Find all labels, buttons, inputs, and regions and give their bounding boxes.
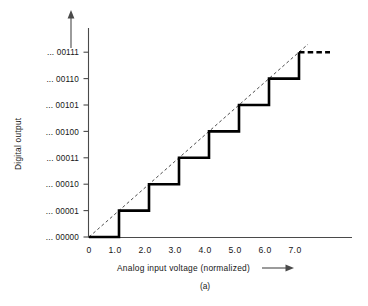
y-tick-label-1: ... 00001 [46, 207, 80, 216]
chart-canvas: ... 00111 ... 00110 ... 00101 ... 00100 … [0, 0, 368, 306]
x-axis-title: Analog input voltage (normalized) [117, 263, 250, 273]
y-tick-label-4: ... 00100 [46, 128, 80, 137]
y-tick-label-3: ... 00011 [46, 154, 79, 163]
x-tick-label-2: 2.0 [138, 245, 151, 255]
x-tick-label-7: 7.0 [288, 245, 301, 255]
y-tick-label-5: ... 00101 [46, 101, 80, 110]
ideal-transfer-line [89, 44, 308, 237]
y-tick-label-7: ... 00111 [47, 48, 79, 57]
y-tick-label-6: ... 00110 [46, 75, 79, 84]
x-tick-label-4: 4.0 [198, 245, 211, 255]
y-tick-labels: ... 00111 ... 00110 ... 00101 ... 00100 … [46, 48, 80, 242]
x-tick-label-1: 1.0 [108, 245, 121, 255]
y-tick-label-2: ... 00010 [46, 180, 80, 189]
y-axis-direction-arrow [68, 10, 75, 48]
x-tick-label-0: 0 [86, 245, 91, 255]
figure-caption: (a) [200, 281, 210, 291]
y-axis-title: Digital output [13, 117, 23, 170]
y-tick-marks [84, 52, 89, 237]
adc-transfer-function-figure: ... 00111 ... 00110 ... 00101 ... 00100 … [0, 0, 368, 306]
x-tick-labels: 0 1.0 2.0 3.0 4.0 5.0 6.0 7.0 [86, 245, 301, 255]
axes-group [89, 28, 353, 238]
x-tick-label-5: 5.0 [228, 245, 241, 255]
x-tick-label-6: 6.0 [258, 245, 271, 255]
y-tick-label-0: ... 00000 [46, 233, 80, 242]
x-axis-direction-arrow [262, 265, 294, 272]
x-tick-label-3: 3.0 [168, 245, 181, 255]
